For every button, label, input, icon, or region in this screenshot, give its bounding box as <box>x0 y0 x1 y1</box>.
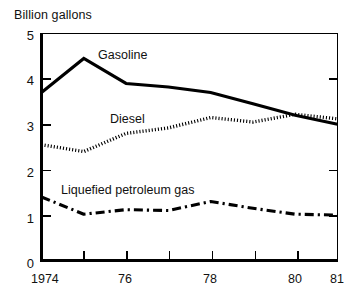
series-lpg-line <box>42 197 338 215</box>
chart-axes <box>41 33 338 262</box>
chart-figure: Billion gallons 5 4 3 2 1 0 1974 76 78 8… <box>0 0 352 300</box>
caption-strip <box>0 291 352 300</box>
series-gasoline-line <box>42 58 338 124</box>
chart-y-ticks-right <box>329 79 338 216</box>
series-diesel-line <box>42 114 338 151</box>
chart-plot-area <box>0 0 352 300</box>
chart-x-ticks <box>84 251 298 260</box>
